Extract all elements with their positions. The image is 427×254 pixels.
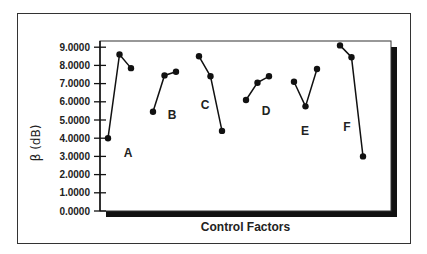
factor-label: C [201, 98, 210, 112]
y-tick-label: 4.0000 [59, 133, 90, 144]
y-tick-label: 8.0000 [59, 60, 90, 71]
data-point [196, 53, 202, 59]
data-point [348, 54, 354, 60]
data-point [337, 42, 343, 48]
data-point [173, 69, 179, 75]
plot-shadow-bottom [106, 211, 397, 217]
data-point [207, 73, 213, 79]
y-tick-label: 3.0000 [59, 151, 90, 162]
y-tick-label: 7.0000 [59, 78, 90, 89]
y-tick-label: 2.0000 [59, 169, 90, 180]
y-tick-label: 1.0000 [59, 187, 90, 198]
y-tick-label: 0.0000 [59, 206, 90, 217]
x-axis-title: Control Factors [100, 220, 391, 234]
data-point [291, 79, 297, 85]
data-point [314, 66, 320, 72]
data-point [219, 128, 225, 134]
y-axis-title: β (dB) [29, 121, 43, 165]
data-point [254, 79, 260, 85]
plot-shadow-right [391, 47, 397, 217]
data-point [105, 135, 111, 141]
y-tick-label: 5.0000 [59, 115, 90, 126]
factor-label: B [168, 108, 177, 122]
plot-area: 0.00001.00002.00003.00004.00005.00006.00… [0, 0, 427, 254]
data-point [243, 97, 249, 103]
y-tick-label: 6.0000 [59, 96, 90, 107]
factor-label: D [262, 104, 271, 118]
data-point [161, 72, 167, 78]
data-point [302, 103, 308, 109]
data-point [128, 65, 134, 71]
data-point [266, 73, 272, 79]
factor-label: E [301, 124, 309, 138]
data-point [116, 51, 122, 57]
y-axis-ticks: 0.00001.00002.00003.00004.00005.00006.00… [59, 42, 106, 217]
data-point [360, 153, 366, 159]
factor-label: A [124, 146, 133, 160]
y-tick-label: 9.0000 [59, 42, 90, 53]
data-point [150, 109, 156, 115]
factor-label: F [343, 120, 350, 134]
